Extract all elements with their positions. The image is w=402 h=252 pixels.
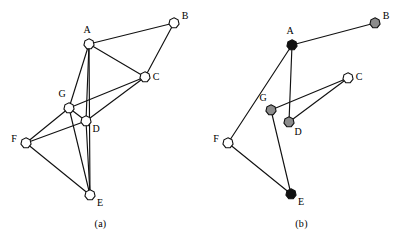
graph-node-G[interactable]: [64, 103, 74, 113]
graph-node-label-D: D: [92, 123, 99, 134]
graph-edge-C-D: [86, 77, 145, 121]
graph-edge-B-C: [145, 23, 174, 77]
graph-node-D[interactable]: [284, 117, 294, 127]
graph-node-label-B: B: [182, 10, 189, 21]
graph-edge-G-F: [26, 108, 69, 143]
graph-node-G[interactable]: [266, 105, 276, 115]
graph-node-B[interactable]: [370, 18, 380, 28]
caption-b: (b): [201, 218, 402, 229]
graph-node-label-G: G: [259, 92, 266, 103]
figure-root: ABCDEFG (a) ABCDEFG (b): [0, 0, 402, 252]
graph-node-A[interactable]: [287, 40, 297, 50]
graph-node-A[interactable]: [84, 39, 94, 49]
graph-edge-G-C: [271, 78, 348, 110]
node-layer: ABCDEFG: [11, 10, 188, 208]
graph-node-C[interactable]: [343, 73, 353, 83]
graph-node-label-F: F: [11, 133, 17, 144]
panel-a: ABCDEFG (a): [0, 0, 201, 252]
graph-edge-A-G: [69, 44, 89, 108]
graph-node-label-A: A: [286, 25, 294, 36]
edge-layer: [228, 23, 375, 194]
graph-node-B[interactable]: [169, 18, 179, 28]
graph-edge-C-G: [69, 77, 145, 108]
graph-node-F[interactable]: [223, 138, 233, 148]
graph-node-label-B: B: [383, 10, 390, 21]
graph-edge-F-E: [26, 143, 90, 195]
panel-b: ABCDEFG (b): [201, 0, 402, 252]
graph-edge-D-C: [289, 78, 348, 122]
node-layer: ABCDEFG: [213, 10, 389, 207]
graph-node-C[interactable]: [140, 72, 150, 82]
graph-node-label-D: D: [294, 126, 301, 137]
graph-edge-F-E: [228, 143, 291, 194]
graph-node-label-F: F: [213, 133, 219, 144]
graph-b: ABCDEFG: [201, 0, 402, 252]
graph-node-label-C: C: [356, 71, 363, 82]
graph-node-label-E: E: [97, 197, 103, 208]
graph-a: ABCDEFG: [0, 0, 201, 252]
graph-edge-A-C: [89, 44, 145, 77]
graph-edge-A-B: [89, 23, 174, 44]
caption-a: (a): [0, 218, 201, 229]
graph-edge-A-B: [292, 23, 375, 45]
graph-node-label-A: A: [83, 24, 91, 35]
edge-layer: [26, 23, 174, 195]
graph-edge-A-D: [289, 45, 292, 122]
graph-node-label-E: E: [298, 196, 304, 207]
graph-node-label-G: G: [58, 88, 65, 99]
graph-node-D[interactable]: [81, 116, 91, 126]
graph-node-E[interactable]: [85, 190, 95, 200]
graph-node-label-C: C: [153, 71, 160, 82]
graph-node-E[interactable]: [286, 189, 296, 199]
graph-node-F[interactable]: [21, 138, 31, 148]
